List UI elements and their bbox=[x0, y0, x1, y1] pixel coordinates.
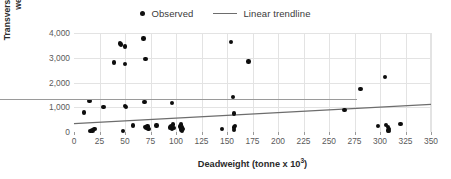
data-point bbox=[123, 62, 127, 66]
data-point bbox=[358, 87, 362, 91]
x-axis-title: Deadweight (tonne x 103) bbox=[74, 157, 431, 169]
data-point bbox=[146, 127, 150, 131]
plot-area bbox=[74, 33, 431, 132]
legend-label-observed: Observed bbox=[151, 8, 193, 19]
y-axis-title: Transverse group renewal weight (kg) bbox=[2, 0, 24, 46]
x-axis-tick-mark bbox=[253, 132, 254, 135]
x-axis-tick-mark bbox=[176, 132, 177, 135]
data-point bbox=[112, 60, 116, 64]
y-axis-tick-label: 4,000 bbox=[40, 28, 70, 38]
legend-line-marker-icon bbox=[213, 13, 237, 14]
x-axis-tick-mark bbox=[406, 132, 407, 135]
data-point bbox=[246, 59, 250, 63]
data-point bbox=[220, 127, 224, 131]
x-axis-tick-mark bbox=[125, 132, 126, 135]
x-axis-tick-mark bbox=[227, 132, 228, 135]
x-axis-tick-label: 350 bbox=[416, 136, 446, 146]
legend-label-linear-trendline: Linear trendline bbox=[243, 8, 310, 19]
x-axis-tick-mark bbox=[100, 132, 101, 135]
x-axis-tick-mark bbox=[380, 132, 381, 135]
data-point bbox=[142, 100, 146, 104]
x-axis-tick-labels: 0255075100125150175200225250275300325350 bbox=[74, 136, 431, 150]
data-point bbox=[123, 44, 127, 48]
data-point bbox=[398, 122, 402, 126]
gridline-vertical bbox=[431, 33, 432, 132]
y-axis-tick-label: 1,000 bbox=[40, 102, 70, 112]
legend-dot-marker-icon bbox=[140, 11, 145, 16]
data-point bbox=[143, 57, 147, 61]
x-axis-tick-mark bbox=[355, 132, 356, 135]
legend-entry-linear-trendline: Linear trendline bbox=[213, 8, 310, 19]
y-axis-tick-labels: 01,0002,0003,0004,000 bbox=[38, 33, 70, 132]
x-axis-line bbox=[0, 99, 357, 100]
data-point bbox=[342, 108, 346, 112]
x-axis-tick-mark bbox=[431, 132, 432, 135]
x-axis-tick-mark bbox=[329, 132, 330, 135]
y-axis-tick-label: 3,000 bbox=[40, 53, 70, 63]
x-axis-title-suffix: ) bbox=[304, 159, 307, 169]
x-axis-title-prefix: Deadweight (tonne x 10 bbox=[198, 159, 301, 169]
data-point bbox=[141, 36, 145, 40]
linear-trendline bbox=[74, 33, 431, 132]
x-axis-tick-mark bbox=[202, 132, 203, 135]
x-axis-tick-mark bbox=[151, 132, 152, 135]
data-point bbox=[82, 110, 86, 114]
x-axis-tick-mark bbox=[278, 132, 279, 135]
data-point bbox=[170, 101, 174, 105]
chart-legend: Observed Linear trendline bbox=[0, 4, 451, 22]
y-axis-tick-label: 2,000 bbox=[40, 78, 70, 88]
data-point bbox=[154, 123, 158, 127]
x-axis-tick-mark bbox=[74, 132, 75, 135]
x-axis-tick-mark bbox=[304, 132, 305, 135]
legend-entry-observed: Observed bbox=[140, 8, 193, 19]
scatter-chart-figure: Observed Linear trendline Transverse gro… bbox=[0, 0, 451, 179]
